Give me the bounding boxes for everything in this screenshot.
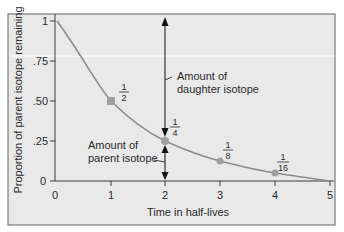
svg-text:4: 4 <box>172 128 177 138</box>
parent-annotation-line1: Amount of <box>88 139 139 151</box>
y-tick-label: .25 <box>33 135 48 147</box>
svg-text:2: 2 <box>121 93 126 103</box>
x-tick-label: 3 <box>217 189 223 201</box>
y-axis-label: Proportion of parent isotope remaining <box>12 6 24 193</box>
svg-text:1: 1 <box>225 140 230 150</box>
x-tick-label: 5 <box>327 189 333 201</box>
data-point-half <box>107 97 115 105</box>
x-tick-label: 4 <box>272 189 278 201</box>
svg-text:1: 1 <box>172 117 177 127</box>
svg-text:16: 16 <box>278 163 288 173</box>
daughter-annotation-line1: Amount of <box>177 70 228 82</box>
svg-text:8: 8 <box>225 151 230 161</box>
data-point-quarter <box>161 137 169 145</box>
svg-text:1: 1 <box>121 82 126 92</box>
x-tick-label: 2 <box>162 189 168 201</box>
y-tick-label: .50 <box>33 95 48 107</box>
daughter-annotation-line2: daughter isotope <box>177 83 259 95</box>
half-life-chart: 1 .75 .50 .25 0 0 1 2 3 4 5 Time in half… <box>0 0 344 232</box>
data-point-eighth <box>217 158 224 165</box>
y-tick-label: 0 <box>40 175 46 187</box>
y-tick-label: 1 <box>42 15 48 27</box>
parent-annotation-line2: parent isotope <box>88 152 158 164</box>
svg-text:1: 1 <box>280 152 285 162</box>
y-tick-label: .75 <box>33 55 48 67</box>
x-tick-label: 0 <box>52 189 58 201</box>
x-axis-label: Time in half-lives <box>147 206 230 218</box>
x-tick-label: 1 <box>108 189 114 201</box>
